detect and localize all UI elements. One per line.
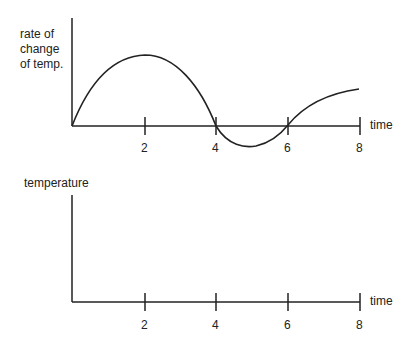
rate-tick-label-8: 8 <box>356 141 363 156</box>
rate-ylabel-line-1: rate of <box>20 27 54 42</box>
rate-ylabel-line-3: of temp. <box>20 57 63 72</box>
temp-tick-label-2: 2 <box>141 318 148 333</box>
temp-tick-label-6: 6 <box>284 318 291 333</box>
temp-xlabel: time <box>370 294 393 309</box>
temp-tick-label-8: 8 <box>356 318 363 333</box>
rate-tick-label-6: 6 <box>284 141 291 156</box>
rate-xlabel: time <box>370 118 393 133</box>
rate-ylabel-line-2: change <box>20 42 59 57</box>
temp-ylabel: temperature <box>24 176 89 191</box>
rate-tick-label-4: 4 <box>212 141 219 156</box>
temp-tick-label-4: 4 <box>212 318 219 333</box>
rate-tick-label-2: 2 <box>141 141 148 156</box>
